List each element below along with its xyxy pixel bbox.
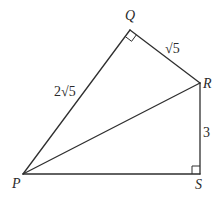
segment-PQ — [23, 30, 130, 174]
length-label-PQ: 2√5 — [54, 84, 76, 99]
length-label-QR: √5 — [165, 41, 180, 56]
length-label-RS: 3 — [203, 125, 210, 140]
vertex-label-P: P — [11, 176, 21, 191]
geometry-diagram: Q R S P 2√5 √5 3 — [0, 0, 221, 204]
segment-QR — [130, 30, 200, 83]
vertex-label-S: S — [195, 177, 202, 192]
segment-PR — [23, 83, 200, 174]
vertex-label-Q: Q — [125, 8, 135, 23]
right-angle-marker-S — [192, 166, 200, 174]
vertex-label-R: R — [202, 76, 212, 91]
right-angle-marker-Q — [125, 35, 136, 42]
